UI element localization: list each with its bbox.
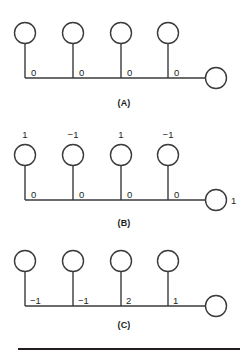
node-label-4: −1 [163, 129, 174, 140]
branch-label-3: 2 [126, 295, 131, 306]
branch-label-4: 0 [174, 67, 179, 78]
node-circle-1 [15, 145, 36, 166]
branch-label-1: 0 [31, 189, 36, 200]
node-circle-3 [111, 23, 132, 44]
panel-a-caption: (A) [0, 98, 248, 108]
branch-label-4: 1 [173, 295, 178, 306]
node-circle-3 [111, 145, 132, 166]
node-circle-2 [63, 23, 84, 44]
stem-diagram-figure: 0 0 0 0 (A) 1 −1 1 −1 0 [0, 0, 248, 360]
panel-a: 0 0 0 0 (A) [0, 0, 248, 118]
branch-label-3: 0 [127, 189, 132, 200]
node-circle-4 [158, 145, 179, 166]
horizontal-rule [18, 348, 240, 350]
node-circle-4 [158, 23, 179, 44]
panel-c-caption: (C) [0, 320, 248, 330]
terminal-node-circle [206, 68, 227, 89]
node-circle-1 [15, 251, 36, 272]
node-label-2: −1 [68, 129, 79, 140]
node-circle-1 [15, 23, 36, 44]
branch-label-3: 0 [127, 67, 132, 78]
branch-label-1: 0 [31, 67, 36, 78]
node-circle-3 [111, 251, 132, 272]
terminal-node-circle [206, 190, 227, 211]
node-circle-2 [63, 251, 84, 272]
node-label-3: 1 [118, 129, 123, 140]
node-circle-2 [63, 145, 84, 166]
panel-c: −1 −1 2 1 (C) [0, 238, 248, 338]
branch-label-2: −1 [78, 295, 89, 306]
branch-label-1: −1 [30, 295, 41, 306]
node-label-1: 1 [22, 129, 27, 140]
branch-label-2: 0 [79, 189, 84, 200]
panel-b: 1 −1 1 −1 0 0 0 0 1 (B) [0, 118, 248, 238]
terminal-node-circle [206, 296, 227, 317]
panel-b-caption: (B) [0, 218, 248, 228]
node-circle-4 [158, 251, 179, 272]
branch-label-4: 0 [174, 189, 179, 200]
branch-label-2: 0 [79, 67, 84, 78]
terminal-node-label: 1 [231, 195, 236, 206]
